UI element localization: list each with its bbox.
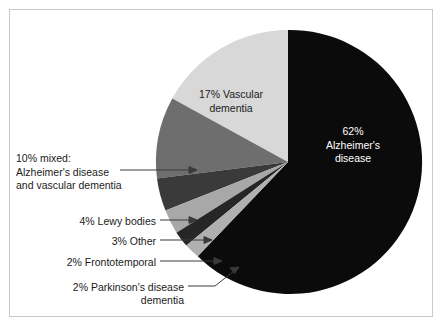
slice-label-line: Alzheimer's — [311, 139, 395, 153]
slice-label-parkinsons-disease-dementia-line2: dementia — [16, 294, 184, 308]
pie-chart-figure: 62% Alzheimer's disease 17% Vascular dem… — [0, 0, 446, 329]
slice-label-line: 2% Parkinson's disease — [16, 281, 184, 295]
slice-label-line: dementia — [16, 294, 184, 308]
slice-label-alzheimers-disease: 62% Alzheimer's disease — [311, 125, 395, 166]
slice-label-parkinsons-disease-dementia: 2% Parkinson's disease — [16, 281, 184, 295]
slice-label-line: dementia — [178, 102, 284, 116]
slice-label-line: disease — [311, 152, 395, 166]
slice-label-line: 4% Lewy bodies — [36, 215, 156, 229]
slice-label-other: 3% Other — [36, 235, 156, 249]
slice-label-line: 3% Other — [36, 235, 156, 249]
slice-label-line: 62% — [311, 125, 395, 139]
slice-label-mixed-alzheimers-vascular: 10% mixed: Alzheimer's disease and vascu… — [16, 152, 166, 193]
slice-label-line: and vascular dementia — [16, 179, 166, 193]
slice-label-vascular-dementia: 17% Vascular dementia — [178, 88, 284, 115]
slice-label-frontotemporal: 2% Frontotemporal — [26, 256, 156, 270]
slice-label-lewy-bodies: 4% Lewy bodies — [36, 215, 156, 229]
slice-label-line: 2% Frontotemporal — [26, 256, 156, 270]
slice-label-line: 17% Vascular — [178, 88, 284, 102]
slice-label-line: Alzheimer's disease — [16, 166, 166, 180]
slice-label-line: 10% mixed: — [16, 152, 166, 166]
